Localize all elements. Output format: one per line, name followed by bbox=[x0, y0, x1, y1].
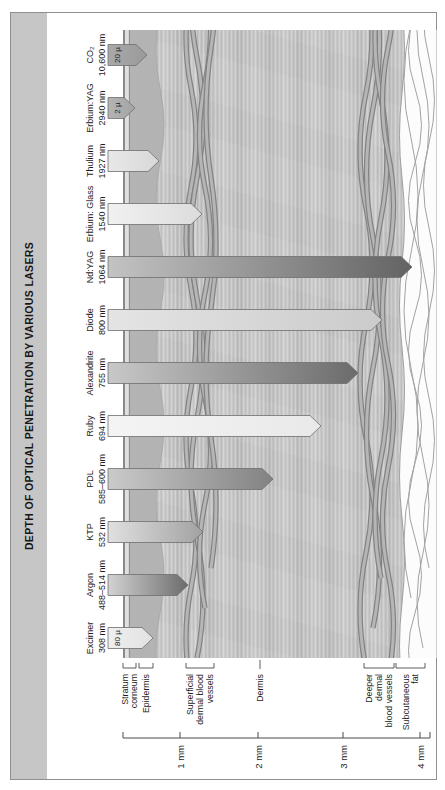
decor-shape: corneum bbox=[129, 674, 139, 708]
laser-name-label: Thulium bbox=[85, 145, 95, 177]
laser-name-label: PDL bbox=[85, 470, 95, 488]
figure-stage: DEPTH OF OPTICAL PENETRATION BY VARIOUS … bbox=[0, 0, 445, 790]
depth-tick-label: 3 mm bbox=[338, 745, 349, 769]
decor-shape: dermal blood bbox=[195, 674, 205, 725]
layer-bracket bbox=[396, 663, 425, 668]
laser-arrow-10 bbox=[108, 151, 159, 172]
layer-bracket bbox=[123, 663, 136, 668]
depth-tick-label: 4 mm bbox=[415, 745, 426, 769]
decor-shape: vessels bbox=[205, 673, 215, 703]
decor-shape: Superficial bbox=[185, 674, 195, 715]
layer-label: Subcutaneousfat bbox=[401, 673, 421, 730]
depth-tick-label: 1 mm bbox=[175, 745, 186, 769]
depth-tick-label: 2 mm bbox=[253, 745, 264, 769]
layer-label: Deeperdermalblood vessels bbox=[364, 673, 393, 727]
laser-arrow-2 bbox=[108, 575, 188, 596]
laser-wavelength-label: 800 nm bbox=[97, 305, 107, 335]
decor-shape: Deeper bbox=[364, 674, 374, 703]
laser-wavelength-label: 10,600 nm bbox=[97, 34, 107, 77]
rotated-figure-viewport: DEPTH OF OPTICAL PENETRATION BY VARIOUS … bbox=[0, 0, 445, 790]
decor-shape: Stratum bbox=[120, 674, 130, 705]
laser-arrow-4 bbox=[108, 469, 273, 490]
laser-name-label: Argon bbox=[85, 573, 95, 597]
decor-shape: Subcutaneous bbox=[401, 673, 411, 730]
layer-label: Superficialdermal bloodvessels bbox=[185, 673, 214, 724]
laser-wavelength-label: 1927 nm bbox=[97, 143, 107, 178]
laser-arrow-3 bbox=[108, 522, 203, 543]
decor-shape: blood vessels bbox=[384, 673, 394, 727]
laser-name-label: Nd:YAG bbox=[85, 251, 95, 283]
chart-overlay: Excimer308 nm80 µArgon488–514 nmKTP532 n… bbox=[0, 0, 445, 790]
laser-depth-annotation: 20 µ bbox=[113, 47, 122, 63]
laser-arrow-9 bbox=[108, 204, 202, 225]
laser-name-label: Erbium: Glass bbox=[85, 185, 95, 242]
decor-shape: Dermis bbox=[255, 673, 265, 701]
laser-arrow-6 bbox=[108, 363, 358, 384]
laser-arrow-8 bbox=[108, 257, 412, 278]
laser-name-label: CO₂ bbox=[85, 46, 95, 64]
layer-label: Dermis bbox=[255, 673, 265, 701]
laser-name-label: KTP bbox=[85, 523, 95, 541]
decor-shape: fat bbox=[410, 673, 420, 683]
decor-shape: dermal bbox=[374, 674, 384, 701]
laser-wavelength-label: 308 nm bbox=[97, 623, 107, 653]
depth-ruler bbox=[123, 732, 430, 738]
layer-bracket bbox=[186, 663, 214, 668]
laser-name-label: Ruby bbox=[85, 415, 95, 437]
layer-bracket bbox=[139, 663, 153, 668]
laser-wavelength-label: 2940 nm bbox=[97, 90, 107, 125]
layer-label: Epidermis bbox=[141, 673, 151, 713]
laser-wavelength-label: 694 nm bbox=[97, 411, 107, 441]
decor-shape: Epidermis bbox=[141, 673, 151, 713]
laser-name-label: Alexandrite bbox=[85, 350, 95, 395]
laser-wavelength-label: 585–600 nm bbox=[97, 454, 107, 504]
layer-bracket bbox=[364, 663, 394, 668]
laser-name-label: Excimer bbox=[85, 622, 95, 655]
laser-wavelength-label: 755 nm bbox=[97, 358, 107, 388]
laser-wavelength-label: 532 nm bbox=[97, 517, 107, 547]
layer-label: Stratumcorneum bbox=[120, 674, 140, 708]
laser-wavelength-label: 1540 nm bbox=[97, 196, 107, 231]
laser-name-label: Erbium:YAG bbox=[85, 83, 95, 132]
laser-depth-annotation: 80 µ bbox=[113, 630, 122, 646]
laser-wavelength-label: 488–514 nm bbox=[97, 560, 107, 610]
laser-wavelength-label: 1064 nm bbox=[97, 249, 107, 284]
laser-arrow-5 bbox=[108, 416, 321, 437]
laser-depth-annotation: 2 µ bbox=[113, 102, 122, 114]
laser-arrow-7 bbox=[108, 310, 382, 331]
laser-name-label: Diode bbox=[85, 308, 95, 332]
